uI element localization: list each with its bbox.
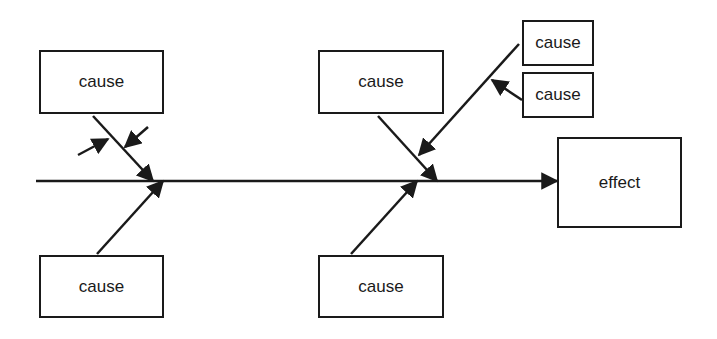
bone-bottom-left [97,181,163,254]
bone-bottom-middle [351,181,417,254]
cause-box-bottom-middle: cause [318,255,444,318]
cause-box-top-middle: cause [318,50,444,114]
bone-top-left [93,116,153,181]
sub-arrow-right [125,127,148,147]
sub-cause-box-lower: cause [522,72,594,118]
effect-box: effect [557,137,682,228]
cause-label: cause [79,277,124,297]
sub-cause-box-upper: cause [522,20,594,66]
bone-sub-cause-lower [492,80,522,100]
cause-label: cause [358,277,403,297]
cause-box-bottom-left: cause [39,255,164,318]
cause-label: cause [535,33,580,53]
cause-box-top-left: cause [39,50,164,114]
effect-label: effect [599,173,640,193]
cause-label: cause [535,85,580,105]
bone-top-middle [378,116,437,181]
cause-label: cause [358,72,403,92]
cause-label: cause [79,72,124,92]
sub-arrow-left [78,139,108,155]
